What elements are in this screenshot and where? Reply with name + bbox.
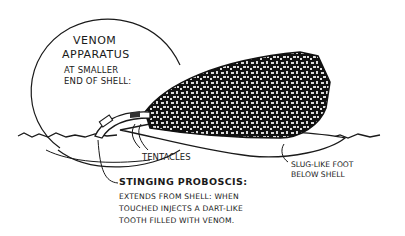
venom-apparatus-title-1: Venom: [73, 35, 116, 47]
foot-label-line-1: Slug-like foot: [291, 160, 353, 170]
foot-label: Slug-like foot below shell: [291, 160, 353, 180]
proboscis-desc-line-2: touched injects a dart-like: [119, 203, 243, 215]
proboscis-desc-line-3: tooth filled with venom.: [119, 215, 243, 227]
proboscis-title: Stinging proboscis:: [119, 177, 247, 187]
foot-label-line-2: below shell: [291, 170, 353, 180]
tentacles-label: Tentacles: [142, 153, 191, 162]
venom-apparatus-title-2: Apparatus: [62, 49, 130, 61]
shell: [145, 52, 330, 138]
cone-snail-diagram: Venom Apparatus at smaller end of shell:…: [0, 0, 405, 236]
venom-apparatus-sub-2: end of shell:: [64, 77, 131, 86]
venom-apparatus-sub-1: at smaller: [64, 66, 118, 75]
proboscis-description: Extends from shell: when touched injects…: [119, 191, 243, 227]
proboscis-desc-line-1: Extends from shell: when: [119, 191, 243, 203]
